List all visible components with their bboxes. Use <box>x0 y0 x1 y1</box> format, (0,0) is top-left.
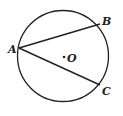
center-point-o <box>63 56 66 59</box>
circle <box>18 11 109 102</box>
label-b: B <box>101 15 111 28</box>
label-c: C <box>102 85 111 98</box>
chord-ac <box>19 48 100 85</box>
chord-ab <box>19 24 100 48</box>
label-o: O <box>67 52 77 65</box>
label-a: A <box>7 43 17 56</box>
geometry-diagram: O A B C <box>0 0 123 116</box>
